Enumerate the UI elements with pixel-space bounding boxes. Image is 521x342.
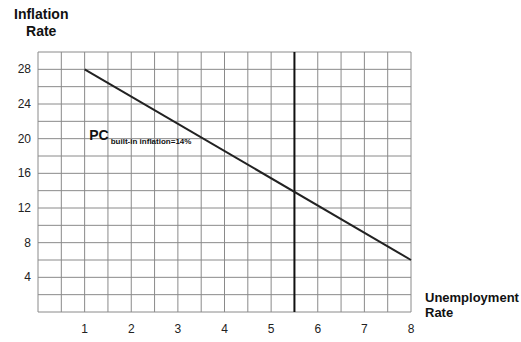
x-tick-label: 4 (221, 322, 228, 336)
x-tick-label: 1 (81, 322, 88, 336)
y-tick-label: 12 (18, 201, 32, 215)
x-tick-label: 6 (314, 322, 321, 336)
y-tick-label: 8 (24, 236, 31, 250)
y-tick-label: 16 (18, 166, 32, 180)
x-tick-label: 5 (268, 322, 275, 336)
y-tick-label: 4 (24, 270, 31, 284)
y-tick-label: 20 (18, 132, 32, 146)
x-tick-label: 8 (408, 322, 415, 336)
x-tick-label: 3 (175, 322, 182, 336)
y-tick-label: 24 (18, 97, 32, 111)
phillips-curve-chart: 12345678481216202428PCbuilt-in inflation… (0, 0, 521, 342)
curve-label: PCbuilt-in inflation=14% (89, 127, 191, 146)
x-tick-label: 7 (361, 322, 368, 336)
y-tick-label: 28 (18, 62, 32, 76)
x-tick-label: 2 (128, 322, 135, 336)
